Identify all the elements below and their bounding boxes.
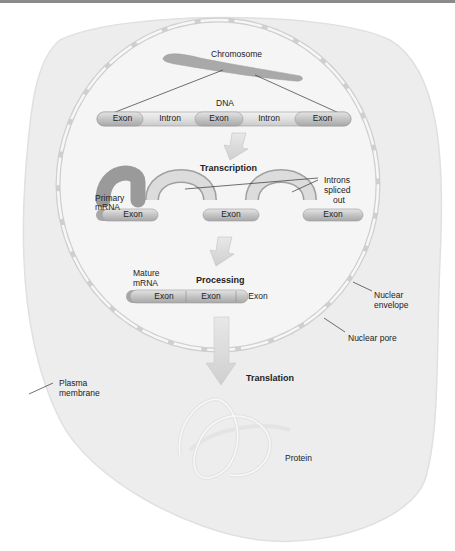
label-mature-mrna-1: Mature: [133, 268, 159, 278]
label-introns-3: out: [333, 195, 345, 205]
label-nuclear-pore: Nuclear pore: [348, 333, 397, 343]
label-mature-mrna-2: mRNA: [133, 278, 158, 288]
dna-segment: Intron: [243, 112, 295, 125]
label-chromosome: Chromosome: [211, 49, 262, 59]
label-nuclear-envelope-1: Nuclear: [374, 290, 403, 300]
primary-mrna-segment: Exon: [208, 208, 254, 221]
dna-segment: Exon: [195, 112, 243, 125]
label-introns-2: spliced: [324, 185, 350, 195]
dna-segment: Exon: [100, 112, 145, 125]
primary-mrna-segment: Exon: [110, 208, 156, 221]
label-plasma-membrane-1: Plasma: [59, 378, 87, 388]
label-translation: Translation: [246, 373, 294, 383]
mature-mrna-segment: Exon: [228, 290, 288, 303]
label-nuclear-envelope-2: envelope: [374, 300, 409, 310]
label-introns-1: Introns: [324, 175, 350, 185]
mature-mrna-segment: Exon: [142, 290, 186, 303]
dna-segment: Exon: [295, 112, 350, 125]
label-transcription: Transcription: [200, 163, 257, 173]
label-dna: DNA: [216, 98, 234, 108]
primary-mrna-segment: Exon: [308, 208, 358, 221]
dna-segment: Intron: [145, 112, 195, 125]
label-plasma-membrane-2: membrane: [59, 388, 100, 398]
label-protein: Protein: [285, 453, 312, 463]
label-processing: Processing: [196, 275, 245, 285]
